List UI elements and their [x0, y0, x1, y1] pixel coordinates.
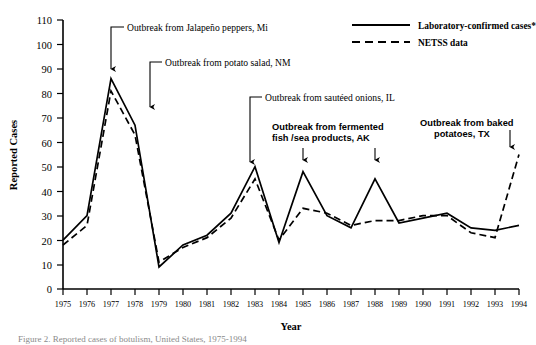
- y-tick-label: 40: [42, 187, 53, 198]
- y-tick-label: 10: [42, 260, 53, 271]
- y-tick-label: 20: [42, 236, 53, 247]
- legend-label-netss: NETSS data: [418, 38, 468, 48]
- legend-label-laboratory-confirmed: Laboratory-confirmed cases*: [418, 21, 536, 31]
- y-tick-label: 50: [42, 162, 53, 173]
- x-axis-labels: 1975 1976 1977 1978 1979 1980 1981 1982 …: [55, 300, 527, 309]
- y-tick-label: 70: [42, 113, 53, 124]
- x-tick-label: 1976: [79, 300, 95, 309]
- annotation-fermented-fish: Outbreak from fermented fish /sea produc…: [272, 122, 384, 160]
- data-series-group: [63, 79, 519, 267]
- x-tick-label: 1992: [463, 300, 479, 309]
- x-tick-label: 1994: [511, 300, 527, 309]
- axes: [63, 20, 519, 289]
- annotation-label-fermented-fish-line2: fish /sea products, AK: [272, 133, 370, 143]
- x-tick-label: 1975: [55, 300, 71, 309]
- y-tick-label: 80: [42, 89, 53, 100]
- x-tick-label: 1987: [343, 300, 359, 309]
- x-tick-label: 1993: [487, 300, 503, 309]
- y-tick-label: 100: [36, 40, 52, 51]
- x-axis-ticks: [63, 289, 519, 295]
- annotation-label-potato-salad: Outbreak from potato salad, NM: [165, 57, 291, 68]
- x-tick-label: 1989: [391, 300, 407, 309]
- y-tick-label: 30: [42, 211, 53, 222]
- x-tick-label: 1984: [271, 300, 287, 309]
- x-tick-label: 1988: [367, 300, 383, 309]
- x-tick-label: 1985: [295, 300, 311, 309]
- y-axis-title: Reported Cases: [8, 120, 19, 190]
- x-tick-label: 1977: [103, 300, 119, 309]
- x-tick-label: 1982: [223, 300, 239, 309]
- annotation-label-baked-potatoes-line2: potatoes, TX: [434, 129, 491, 139]
- annotation-label-sauteed-onions: Outbreak from sautéed onions, IL: [265, 92, 395, 103]
- chart-figure: 110 100 90 80 70 60 50 40 30 20 10 0: [0, 0, 536, 345]
- annotation-label-fermented-fish-line1: Outbreak from fermented: [272, 122, 384, 132]
- line-chart: 110 100 90 80 70 60 50 40 30 20 10 0: [0, 0, 536, 345]
- x-tick-label: 1986: [319, 300, 335, 309]
- x-tick-label: 1978: [127, 300, 143, 309]
- x-tick-label: 1980: [175, 300, 191, 309]
- y-tick-label: 110: [37, 15, 52, 26]
- annotation-label-baked-potatoes-line1: Outbreak from baked: [420, 118, 514, 128]
- y-tick-label: 90: [42, 64, 53, 75]
- x-tick-label: 1983: [247, 300, 263, 309]
- annotation-label-jalapeno: Outbreak from Jalapeño peppers, Mi: [127, 22, 268, 33]
- x-tick-label: 1990: [415, 300, 431, 309]
- annotation-baked-potatoes: Outbreak from baked potatoes, TX: [420, 118, 514, 147]
- y-axis-ticks: 110 100 90 80 70 60 50 40 30 20 10 0: [36, 15, 63, 295]
- x-tick-label: 1979: [151, 300, 167, 309]
- x-tick-label: 1981: [199, 300, 215, 309]
- x-tick-label: 1991: [439, 300, 455, 309]
- figure-caption: Figure 2. Reported cases of botulism, Un…: [18, 334, 518, 344]
- x-axis-title: Year: [281, 321, 302, 332]
- y-tick-label: 60: [42, 138, 53, 149]
- chart-legend: Laboratory-confirmed cases* NETSS data: [352, 21, 536, 48]
- y-tick-label: 0: [47, 284, 52, 295]
- series-laboratory-confirmed-cases: [63, 79, 519, 267]
